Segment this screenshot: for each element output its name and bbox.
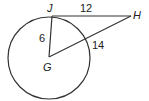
circle-g xyxy=(8,17,90,99)
length-label-gh: 14 xyxy=(92,39,104,51)
geometry-diagram: J H G 12 6 14 xyxy=(0,0,149,101)
segment-jg xyxy=(49,16,52,57)
segment-gh xyxy=(49,16,131,57)
length-label-jh: 12 xyxy=(80,2,92,14)
length-label-jg: 6 xyxy=(39,32,45,44)
point-label-j: J xyxy=(46,2,53,14)
point-label-h: H xyxy=(133,9,141,21)
point-label-g: G xyxy=(43,61,52,73)
